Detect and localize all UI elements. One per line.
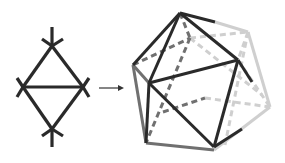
edge <box>248 32 270 107</box>
stub-right-down <box>83 87 89 97</box>
graph-edge-top-right <box>52 46 83 87</box>
mid-edges <box>133 13 214 150</box>
edge <box>215 22 248 32</box>
edge <box>149 60 238 83</box>
diagram-canvas <box>0 0 285 163</box>
edge <box>146 38 190 143</box>
stub-left-up <box>17 78 23 87</box>
edge <box>205 98 270 107</box>
edge <box>133 13 180 65</box>
edge <box>190 32 248 38</box>
edge <box>149 13 180 83</box>
arrow <box>99 85 124 91</box>
graph-edge-bottom-right <box>52 87 83 129</box>
stub-bottom-right <box>52 129 63 136</box>
stub-left-down <box>17 87 23 97</box>
stub-top-right <box>52 39 63 46</box>
graph-edge-bottom-left <box>23 87 52 129</box>
planar-graph <box>17 27 89 147</box>
arrow-head-icon <box>118 85 124 91</box>
icosahedron <box>133 13 270 150</box>
graph-edge-top-left <box>23 46 52 87</box>
stub-right-up <box>83 78 89 87</box>
edge <box>146 143 214 150</box>
